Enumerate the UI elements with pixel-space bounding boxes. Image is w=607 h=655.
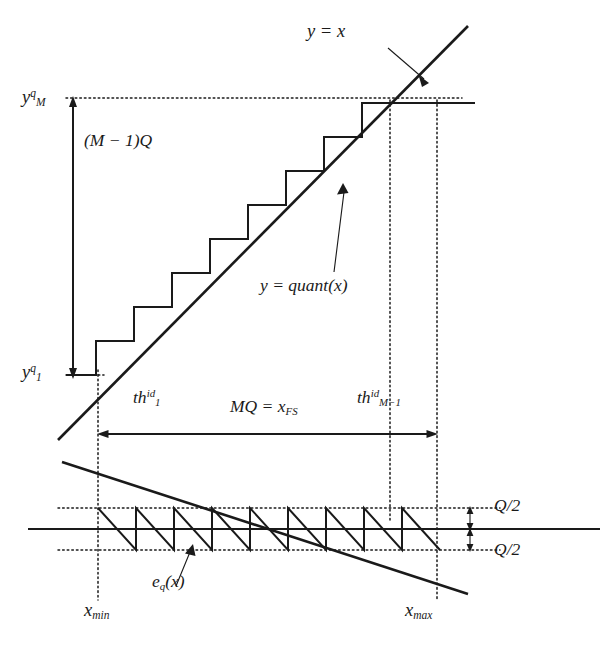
full-scale-arrow — [97, 430, 438, 438]
label-quant-curve: y = quant(x) — [260, 277, 348, 295]
span-arrow — [69, 96, 77, 379]
label-full-scale: MQ = xFS — [230, 398, 298, 417]
y-equals-x-pointer — [388, 48, 429, 87]
label-y-min-quant: yq1 — [22, 363, 42, 384]
label-ideal-line: y = x — [307, 22, 345, 41]
q-half-upper-arrow — [467, 506, 474, 531]
label-x-min: xmin — [84, 601, 109, 622]
label-q-half-lower: Q/2 — [494, 541, 520, 559]
label-y-max-quant: yqM — [22, 88, 46, 109]
label-threshold-last: thidM−1 — [357, 388, 401, 408]
q-half-lower-arrow — [467, 528, 474, 552]
label-span: (M − 1)Q — [84, 132, 152, 150]
ideal-line-y-equals-x — [58, 26, 468, 440]
figure-canvas: yqM yq1 (M − 1)Q y = x y = quant(x) thid… — [0, 0, 607, 655]
label-threshold-first: thid1 — [133, 388, 160, 408]
label-q-half-upper: Q/2 — [494, 497, 520, 515]
label-error-signal: eq(x) — [152, 573, 185, 592]
quant-pointer — [334, 183, 349, 272]
label-x-max: xmax — [405, 601, 432, 622]
